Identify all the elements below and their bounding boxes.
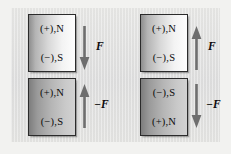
magnet-bottom-left: (+),N (−),S (28, 78, 76, 136)
force-label-right-bottom: −F (206, 98, 221, 110)
pole-label-bottom: (+),N (141, 116, 187, 127)
force-label-right-top: F (208, 40, 216, 52)
magnet-bottom-right: (−),S (+),N (140, 78, 188, 136)
magnet-top-right: (+),N (−),S (140, 14, 188, 72)
pole-label-bottom: (−),S (141, 52, 187, 63)
pole-label-top: (+),N (29, 23, 75, 34)
arrow-down-icon (191, 84, 202, 128)
pole-label-top: (+),N (29, 87, 75, 98)
force-label-left-bottom: −F (94, 98, 109, 110)
magnet-top-left: (+),N (−),S (28, 14, 76, 72)
magnet-force-diagram: (+),N (−),S (+),N (−),S F −F (+),N (−),S… (0, 0, 231, 154)
arrow-up-icon (79, 84, 90, 128)
arrow-down-icon (79, 26, 90, 70)
force-label-left-top: F (96, 40, 104, 52)
pole-label-bottom: (−),S (29, 52, 75, 63)
arrow-up-icon (191, 26, 202, 70)
pole-label-bottom: (−),S (29, 116, 75, 127)
pole-label-top: (+),N (141, 23, 187, 34)
pole-label-top: (−),S (141, 87, 187, 98)
